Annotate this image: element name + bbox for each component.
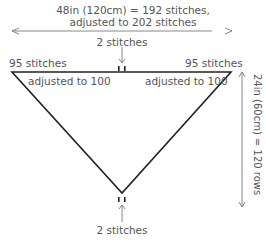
left-adjusted-label: adjusted to 100: [28, 75, 111, 87]
right-stitches-label: 95 stitches: [185, 57, 243, 69]
bottom-stitches-label: 2 stitches: [82, 224, 162, 236]
left-stitches-label: 95 stitches: [9, 57, 67, 69]
width-label-line1: 48in (120cm) = 192 stitches,: [0, 4, 266, 16]
height-arrow: [239, 72, 245, 207]
bottom-arrow-icon: [119, 205, 125, 222]
top-center-arrow-icon: [119, 47, 125, 63]
right-adjusted-label: adjusted to 100: [145, 75, 228, 87]
width-label-line2: adjusted to 202 stitches: [0, 16, 266, 28]
knitting-schematic: 48in (120cm) = 192 stitches, adjusted to…: [0, 0, 266, 244]
bottom-stitch-marks: [118, 197, 126, 202]
triangle-shape: [12, 72, 231, 193]
width-arrow: [12, 28, 232, 34]
height-label: 24in (60cm) = 120 rows: [252, 74, 263, 195]
top-center-stitches-label: 2 stitches: [82, 36, 162, 48]
top-stitch-marks: [118, 66, 126, 71]
